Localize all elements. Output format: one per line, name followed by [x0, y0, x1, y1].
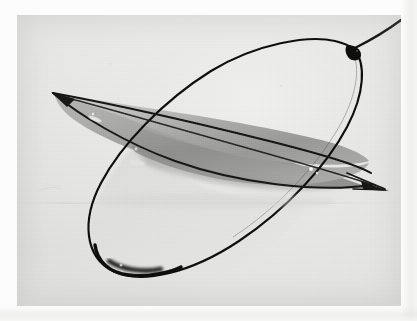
- highlight-film-spot: [92, 113, 94, 115]
- photograph-canvas: [17, 15, 401, 306]
- photograph-image: [17, 15, 401, 306]
- screenshot-root: Soap film minimal surface spanning a twi…: [0, 0, 417, 321]
- cast-shadow: [97, 194, 337, 208]
- highlight-ring-left: [135, 148, 138, 151]
- joint-highlight-bottom: [120, 264, 123, 267]
- highlight-wire-right: [309, 167, 313, 171]
- highlight-wire-right-2: [316, 172, 319, 175]
